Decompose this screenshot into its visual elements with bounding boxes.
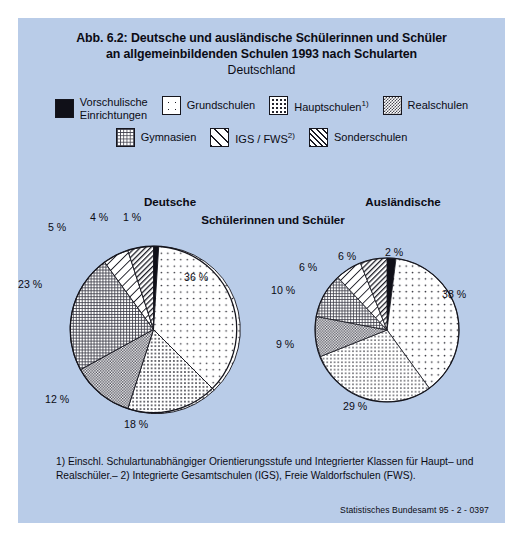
pct-label-auslaendische-vorschulische: 2 % <box>385 246 403 258</box>
legend-item-vorschulische: Vorschulische Einrichtungen <box>55 96 148 121</box>
legend-item-gymnasien: Gymnasien <box>116 128 197 147</box>
pie-chart-auslaendische <box>307 250 467 410</box>
pie-heading-shared: Schülerinnen und Schüler <box>158 213 388 226</box>
pie-svg-deutsche <box>61 237 246 422</box>
legend-label-sonderschulen: Sonderschulen <box>334 131 407 144</box>
legend-swatch-vorschulische <box>55 99 74 118</box>
figure-panel: Abb. 6.2: Deutsche und ausländische Schü… <box>18 18 505 523</box>
pct-label-auslaendische-hauptschulen: 29 % <box>343 400 367 412</box>
legend-item-realschulen: Realschulen <box>383 96 469 115</box>
figure-subtitle: Deutschland <box>18 62 505 79</box>
legend-label-vorschulische: Vorschulische Einrichtungen <box>80 96 148 121</box>
pct-label-auslaendische-grundschulen: 38 % <box>442 288 466 300</box>
legend-swatch-realschulen <box>383 96 402 115</box>
pct-label-deutsche-gymnasien: 23 % <box>18 278 42 290</box>
figure-footnote: 1) Einschl. Schulartunabhängiger Orienti… <box>56 455 476 482</box>
legend-label-igs-fws: IGS / FWS2) <box>235 130 295 145</box>
pct-label-deutsche-vorschulische: 1 % <box>123 211 141 223</box>
legend-item-igs-fws: IGS / FWS2) <box>210 128 295 147</box>
legend-swatch-grundschulen <box>162 96 181 115</box>
legend-item-hauptschulen: Hauptschulen1) <box>269 96 368 115</box>
legend-label-realschulen: Realschulen <box>408 99 469 112</box>
pie-svg-auslaendische <box>307 250 467 410</box>
legend-swatch-gymnasien <box>116 128 135 147</box>
figure-title-block: Abb. 6.2: Deutsche und ausländische Schü… <box>18 30 505 79</box>
legend-label-gymnasien: Gymnasien <box>141 131 197 144</box>
pct-label-auslaendische-realschulen: 9 % <box>276 338 294 350</box>
pct-label-auslaendische-gymnasien: 10 % <box>271 284 295 296</box>
legend-footnote-marker-1: 1) <box>361 99 368 108</box>
pct-label-deutsche-hauptschulen: 18 % <box>124 418 148 430</box>
pct-label-deutsche-sonderschulen: 4 % <box>90 211 108 223</box>
chart-legend: Vorschulische Einrichtungen Grundschulen… <box>18 96 505 154</box>
legend-row-1: Vorschulische Einrichtungen Grundschulen… <box>18 96 505 121</box>
pct-label-deutsche-realschulen: 12 % <box>45 393 69 405</box>
figure-title-line-1: Abb. 6.2: Deutsche und ausländische Schü… <box>18 30 505 46</box>
legend-swatch-hauptschulen <box>269 96 288 115</box>
legend-label-grundschulen: Grundschulen <box>187 99 256 112</box>
pct-label-auslaendische-sonderschulen: 6 % <box>338 250 356 262</box>
legend-item-grundschulen: Grundschulen <box>162 96 256 115</box>
legend-label-igs-fws-text: IGS / FWS <box>235 133 288 145</box>
legend-swatch-igs-fws <box>210 128 229 147</box>
legend-footnote-marker-2: 2) <box>288 131 295 140</box>
legend-swatch-sonderschulen <box>309 128 328 147</box>
pie-chart-deutsche <box>61 237 246 422</box>
pie-heading-auslaendische: Ausländische <box>328 195 478 208</box>
pct-label-deutsche-grundschulen: 36 % <box>184 271 208 283</box>
pie-heading-deutsche: Deutsche <box>110 195 230 208</box>
figure-source: Statistisches Bundesamt 95 - 2 - 0397 <box>340 505 489 515</box>
legend-label-hauptschulen: Hauptschulen1) <box>294 98 368 113</box>
legend-item-sonderschulen: Sonderschulen <box>309 128 407 147</box>
legend-row-2: Gymnasien IGS / FWS2) Sonderschulen <box>18 128 505 147</box>
pct-label-auslaendische-igs-fws: 6 % <box>299 261 317 273</box>
legend-label-hauptschulen-text: Hauptschulen <box>294 101 361 113</box>
pct-label-deutsche-igs-fws: 5 % <box>48 221 66 233</box>
figure-title-line-2: an allgemeinbildenden Schulen 1993 nach … <box>18 46 505 62</box>
